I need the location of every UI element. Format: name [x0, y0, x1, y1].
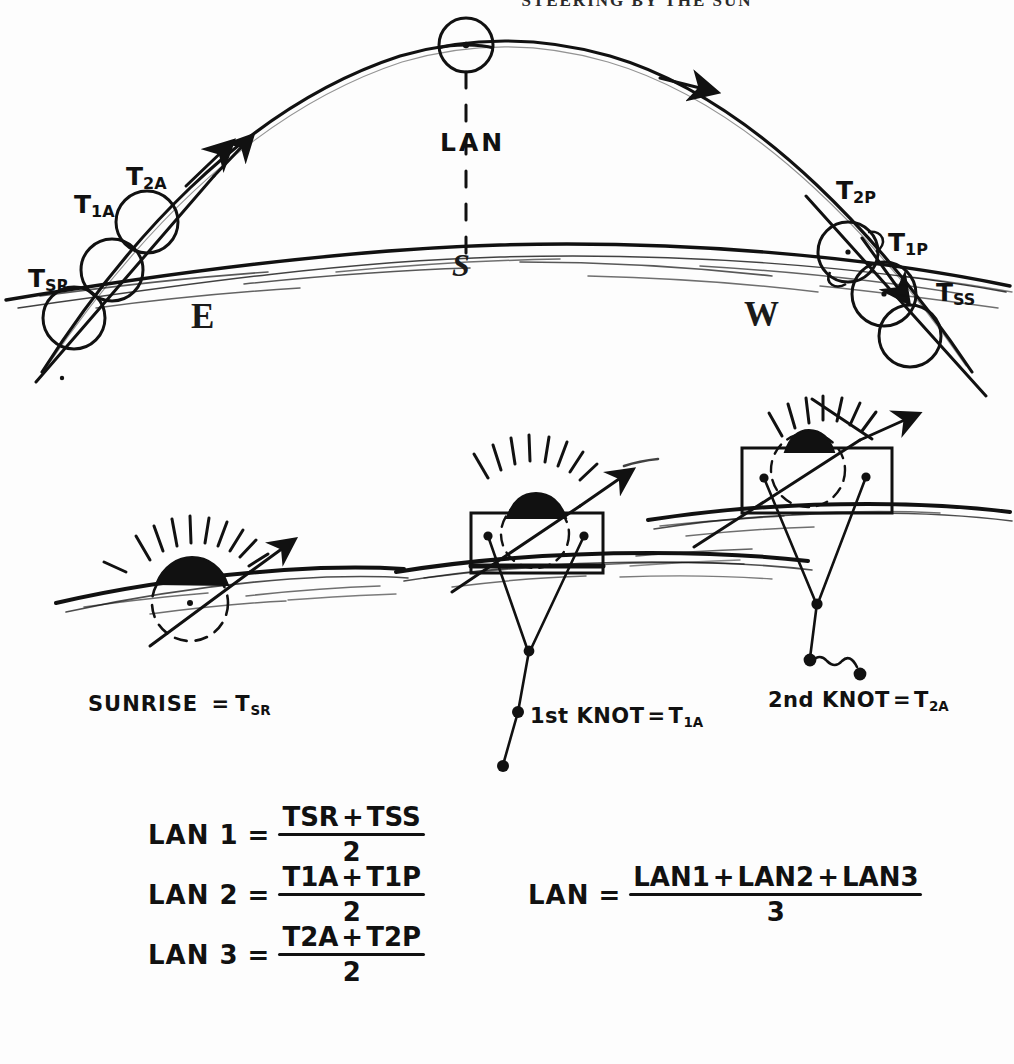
diagram-sheet: STEERING BY THE SUN [0, 0, 1014, 1064]
formula-lan-mean-fraction: LAN1+LAN2+LAN3 3 [629, 864, 922, 927]
formula-lan1: LAN 1 = TSR+TSS 2 [148, 804, 425, 867]
formula-lan-mean: LAN = LAN1+LAN2+LAN3 3 [528, 864, 922, 927]
formula-lan1-lhs: LAN 1 [148, 820, 239, 850]
caption-sunrise: SUNRISE =TSR [88, 692, 271, 718]
caption-first-knot: 1st KNOT=T1A [530, 704, 703, 730]
formula-lan3: LAN 3 = T2A+T2P 2 [148, 924, 425, 987]
formula-lan3-lhs: LAN 3 [148, 940, 239, 970]
formula-lan2-equals: = [248, 880, 270, 910]
formula-lan3-equals: = [248, 940, 270, 970]
formula-lan-mean-equals: = [598, 880, 620, 910]
formula-lan2-fraction: T1A+T1P 2 [278, 864, 425, 927]
formula-lan3-fraction: T2A+T2P 2 [278, 924, 425, 987]
caption-second-knot: 2nd KNOT=T2A [768, 688, 949, 714]
formula-lan2: LAN 2 = T1A+T1P 2 [148, 864, 425, 927]
formula-lan1-fraction: TSR+TSS 2 [278, 804, 424, 867]
formula-lan1-equals: = [248, 820, 270, 850]
formula-lan2-lhs: LAN 2 [148, 880, 239, 910]
formula-lan-mean-lhs: LAN [528, 880, 589, 910]
